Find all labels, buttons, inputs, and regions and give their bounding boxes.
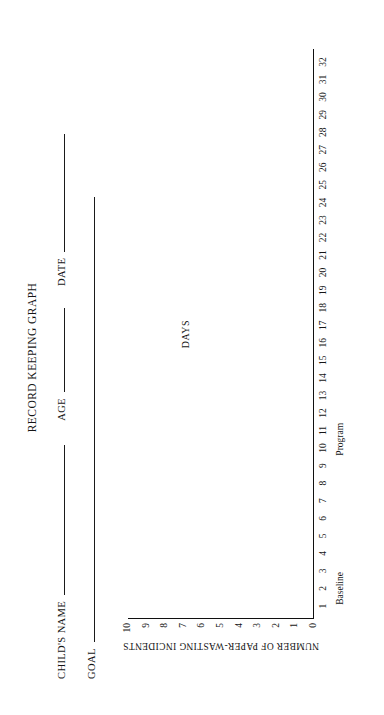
field-label-age: AGE [56, 392, 67, 421]
x-tick-label: 25 [319, 180, 329, 190]
y-tick-label: 10 [123, 623, 133, 639]
x-tick-label: 31 [319, 75, 329, 85]
childs-name-input[interactable] [64, 445, 65, 595]
x-tick-label: 18 [319, 303, 329, 313]
x-tick-label: 5 [319, 533, 329, 538]
y-tick-label: 6 [198, 623, 208, 639]
field-childs-name: CHILD'S NAME [56, 445, 67, 679]
form-row-identity: CHILD'S NAME AGE DATE [56, 134, 67, 679]
x-tick-label: 20 [319, 268, 329, 278]
x-axis-title: DAYS [180, 49, 191, 619]
x-tick-label: 16 [319, 338, 329, 348]
x-tick-label: 9 [319, 463, 329, 468]
y-tick-label: 4 [235, 623, 245, 639]
x-tick-label: 29 [319, 110, 329, 120]
x-tick-label: 21 [319, 250, 329, 260]
x-tick-label: 23 [319, 215, 329, 225]
x-tick-label: 4 [319, 551, 329, 556]
record-keeping-graph-sheet: RECORD KEEPING GRAPH CHILD'S NAME AGE DA… [0, 0, 384, 715]
field-age: AGE [56, 286, 67, 421]
x-tick-label: 24 [319, 198, 329, 208]
x-tick-label: 3 [319, 569, 329, 574]
field-date: DATE [56, 134, 67, 286]
x-tick-label: 1 [319, 604, 329, 609]
x-tick-label: 7 [319, 498, 329, 503]
x-tick-label: 8 [319, 481, 329, 486]
x-tick-label: 6 [319, 516, 329, 521]
x-tick-label: 13 [319, 391, 329, 401]
phase-annotation: Program [335, 423, 345, 456]
page-title: RECORD KEEPING GRAPH [26, 0, 38, 715]
x-tick-label: 14 [319, 373, 329, 383]
age-input[interactable] [64, 308, 65, 392]
y-tick-label: 7 [179, 623, 189, 639]
y-tick-label: 9 [142, 623, 152, 639]
x-tick-label: 26 [319, 163, 329, 173]
x-tick-label: 15 [319, 356, 329, 366]
y-tick-label: 2 [272, 623, 282, 639]
x-tick-label: 30 [319, 92, 329, 102]
chart-plot-area[interactable] [128, 49, 314, 619]
phase-annotation: Baseline [335, 572, 345, 605]
field-goal: GOAL [86, 197, 97, 679]
x-tick-label: 17 [319, 320, 329, 330]
form-row-goal: GOAL [86, 197, 97, 679]
y-axis-tick-labels: 109876543210 [128, 623, 314, 639]
record-keeping-chart: 109876543210 NUMBER OF PAPER-WASTING INC… [128, 49, 314, 619]
y-tick-label: 5 [216, 623, 226, 639]
goal-input[interactable] [94, 197, 95, 642]
x-tick-label: 22 [319, 233, 329, 243]
x-axis-tick-labels: 1234567891011121314151617181920212223242… [314, 49, 330, 619]
y-tick-label: 8 [160, 623, 170, 639]
field-label-date: DATE [56, 252, 67, 286]
x-tick-label: 12 [319, 408, 329, 418]
field-label-childs-name: CHILD'S NAME [56, 595, 67, 679]
x-tick-label: 11 [319, 426, 329, 435]
y-tick-label: 1 [291, 623, 301, 639]
x-tick-label: 19 [319, 285, 329, 295]
date-input[interactable] [64, 134, 65, 252]
y-axis-title: NUMBER OF PAPER-WASTING INCIDENTS [96, 641, 346, 651]
y-tick-label: 0 [309, 623, 319, 639]
x-tick-label: 28 [319, 127, 329, 137]
x-tick-label: 10 [319, 443, 329, 453]
x-tick-label: 32 [319, 57, 329, 67]
y-tick-label: 3 [253, 623, 263, 639]
x-tick-label: 2 [319, 586, 329, 591]
page-rotation-wrapper: RECORD KEEPING GRAPH CHILD'S NAME AGE DA… [0, 0, 384, 715]
x-tick-label: 27 [319, 145, 329, 155]
